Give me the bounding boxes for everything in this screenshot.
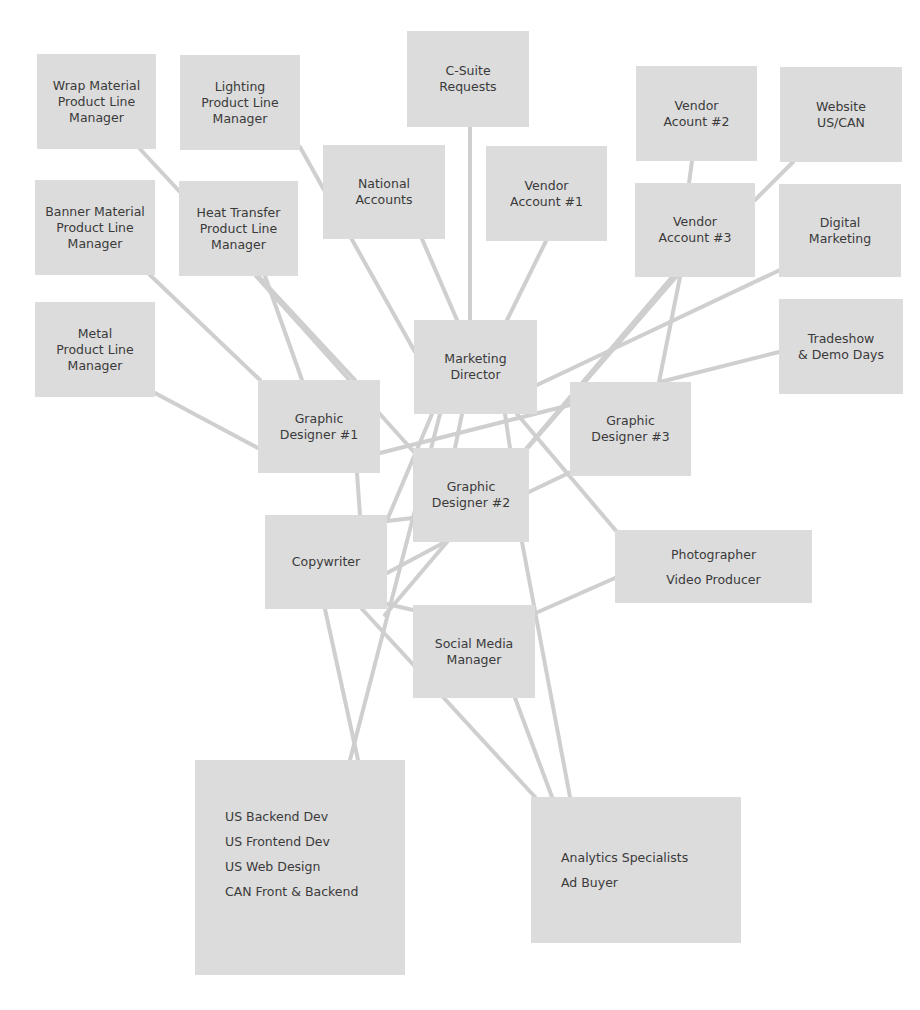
node-tradeshow-demo-days: Tradeshow & Demo Days: [779, 299, 903, 394]
connector-gd1-copywriter: [357, 473, 360, 515]
connector-metal-gd1: [155, 393, 258, 448]
connector-vendor1-director: [507, 241, 546, 320]
connector-copywriter-gd2: [387, 518, 413, 521]
node-label-line: Manager: [69, 110, 124, 126]
node-label-line: Manager: [447, 652, 502, 668]
node-label-line: Designer #1: [280, 427, 358, 443]
node-label-line: US Backend Dev: [225, 804, 328, 829]
connector-copywriter-dev: [325, 609, 358, 760]
node-label-line: Graphic: [295, 411, 344, 427]
node-label-line: Wrap Material: [53, 78, 140, 94]
node-label-line: Product Line: [200, 221, 277, 237]
node-label-line: US Web Design: [225, 854, 320, 879]
node-vendor-account-3: Vendor Account #3: [635, 183, 755, 277]
node-label-line: Requests: [439, 79, 496, 95]
node-graphic-designer-2: Graphic Designer #2: [413, 448, 529, 542]
node-lighting-manager: Lighting Product Line Manager: [180, 55, 300, 150]
node-label-line: Vendor: [525, 178, 569, 194]
node-label-line: Ad Buyer: [561, 870, 618, 895]
node-website-us-can: Website US/CAN: [780, 67, 902, 162]
node-label-line: Video Producer: [666, 567, 760, 592]
node-label-line: Copywriter: [292, 554, 360, 570]
node-heat-transfer-manager: Heat Transfer Product Line Manager: [179, 181, 298, 276]
node-wrap-material-manager: Wrap Material Product Line Manager: [37, 54, 156, 149]
connector-gd2-gd3: [529, 470, 575, 492]
node-label-line: Product Line: [58, 94, 135, 110]
node-vendor-account-1: Vendor Account #1: [486, 146, 607, 241]
connector-national-director: [422, 239, 457, 320]
node-national-accounts: National Accounts: [323, 145, 445, 239]
node-label-line: Product Line: [56, 342, 133, 358]
node-label-line: Account #1: [510, 194, 583, 210]
node-label-line: US Frontend Dev: [225, 829, 330, 854]
node-label-line: C-Suite: [445, 63, 490, 79]
node-label-line: Manager: [68, 358, 123, 374]
node-label-line: Designer #2: [432, 495, 510, 511]
node-label-line: Manager: [213, 111, 268, 127]
connector-tradeshow-gd3: [660, 352, 779, 382]
node-label-line: Lighting: [215, 79, 266, 95]
node-label-line: Marketing: [809, 231, 871, 247]
node-photographer-video-producer: Photographer Video Producer: [615, 530, 812, 603]
connector-banner-gd1: [150, 275, 260, 380]
node-label-line: Photographer: [671, 542, 756, 567]
node-label-line: Tradeshow: [808, 331, 875, 347]
node-marketing-director: Marketing Director: [414, 320, 537, 414]
node-label-line: Graphic: [447, 479, 496, 495]
node-label-line: Account #3: [659, 230, 732, 246]
node-label-line: US/CAN: [817, 115, 865, 131]
node-banner-material-manager: Banner Material Product Line Manager: [35, 180, 155, 275]
node-label-line: Manager: [211, 237, 266, 253]
node-label-line: Website: [816, 99, 866, 115]
node-label-line: Digital: [820, 215, 861, 231]
node-copywriter: Copywriter: [265, 515, 387, 609]
node-csuite-requests: C-Suite Requests: [407, 31, 529, 127]
node-label-line: Marketing: [444, 351, 506, 367]
node-label-line: Vendor: [673, 214, 717, 230]
node-label-line: Designer #3: [591, 429, 669, 445]
node-label-line: Vendor: [675, 98, 719, 114]
node-label-line: Accounts: [356, 192, 413, 208]
org-diagram: Wrap Material Product Line Manager Light…: [0, 0, 920, 1010]
node-label-line: CAN Front & Backend: [225, 879, 358, 904]
node-label-line: Social Media: [435, 636, 514, 652]
node-analytics-ad-buyer: Analytics Specialists Ad Buyer: [531, 797, 741, 943]
node-label-line: National: [358, 176, 410, 192]
node-label-line: Manager: [68, 236, 123, 252]
node-metal-manager: Metal Product Line Manager: [35, 302, 155, 397]
connector-photo-social: [538, 578, 615, 612]
node-vendor-account-2: Vendor Acount #2: [636, 66, 757, 161]
node-label-line: & Demo Days: [798, 347, 884, 363]
node-label-line: Metal: [78, 326, 113, 342]
node-graphic-designer-1: Graphic Designer #1: [258, 380, 380, 473]
node-social-media-manager: Social Media Manager: [413, 605, 535, 698]
node-graphic-designer-3: Graphic Designer #3: [570, 382, 691, 476]
node-label-line: Product Line: [201, 95, 278, 111]
node-label-line: Acount #2: [664, 114, 730, 130]
node-label-line: Graphic: [606, 413, 655, 429]
node-label-line: Banner Material: [45, 204, 145, 220]
node-label-line: Product Line: [56, 220, 133, 236]
connector-digital-director: [537, 270, 780, 385]
node-label-line: Analytics Specialists: [561, 845, 688, 870]
connector-vendor2-vendor3: [689, 161, 692, 183]
node-digital-marketing: Digital Marketing: [779, 184, 901, 277]
node-web-development-team: US Backend Dev US Frontend Dev US Web De…: [195, 760, 405, 975]
node-label-line: Heat Transfer: [197, 205, 281, 221]
node-label-line: Director: [450, 367, 500, 383]
